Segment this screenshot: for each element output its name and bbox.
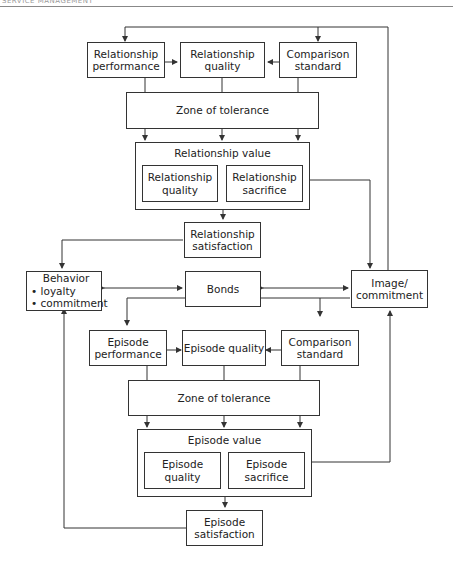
label-line: satisfaction [194,528,254,541]
episode-performance-box: Episode performance [89,330,167,366]
label-line: Relationship [190,228,254,241]
value-title: Episode value [188,434,261,447]
label-line: Episode [204,516,245,529]
label-line: performance [92,60,159,73]
label-line: quality [205,60,241,73]
label-line: Relationship [148,171,212,184]
relationship-comparison-standard-box: Comparison standard [279,42,357,78]
label-line: performance [94,348,161,361]
label-line: Relationship [190,48,254,61]
label-line: sacrifice [245,471,289,484]
bullet-text: loyalty [41,285,76,297]
bullet-loyalty: • loyalty [31,285,76,298]
label-line: Image/ [371,277,407,290]
relationship-value-quality-box: Relationship quality [142,165,218,202]
bullet-commitment: • commitment [31,297,108,310]
label: Zone of tolerance [177,392,270,405]
label-line: quality [162,184,198,197]
label-line: quality [165,471,201,484]
episode-comparison-standard-box: Comparison standard [281,330,359,366]
label: Zone of tolerance [176,104,269,117]
bonds-box: Bonds [185,271,261,307]
label-line: Comparison [287,48,350,61]
label-line: sacrifice [243,184,287,197]
behavior-title: Behavior [43,272,90,285]
label-line: Comparison [289,336,352,349]
label-line: Episode [246,458,287,471]
relationship-quality-box: Relationship quality [180,42,265,78]
label-line: commitment [356,289,423,302]
label-line: Episode [107,336,148,349]
label-line: Episode [162,458,203,471]
image-commitment-box: Image/ commitment [351,270,428,308]
episode-value-quality-box: Episode quality [144,452,221,489]
label-line: Relationship [94,48,158,61]
relationship-sacrifice-box: Relationship sacrifice [226,165,303,202]
value-title: Relationship value [174,147,270,160]
bullet-icon: • [31,285,37,297]
label: Episode quality [184,342,265,355]
label-line: Relationship [232,171,296,184]
behavior-box: Behavior • loyalty • commitment [26,271,102,311]
bullet-text: commitment [41,297,108,309]
episode-sacrifice-box: Episode sacrifice [228,452,305,489]
episode-zone-of-tolerance-box: Zone of tolerance [128,380,320,416]
relationship-satisfaction-box: Relationship satisfaction [184,222,261,258]
label-line: standard [295,60,342,73]
bullet-icon: • [31,297,37,309]
episode-satisfaction-box: Episode satisfaction [186,510,263,546]
episode-quality-box: Episode quality [182,330,266,366]
relationship-zone-of-tolerance-box: Zone of tolerance [126,92,319,129]
label-line: standard [297,348,344,361]
relationship-performance-box: Relationship performance [87,42,165,78]
label-line: satisfaction [192,240,252,253]
label: Bonds [207,283,239,296]
